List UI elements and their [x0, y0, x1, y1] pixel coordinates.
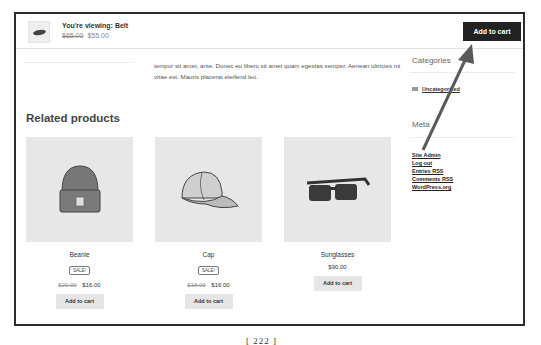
- meta-link-site-admin[interactable]: Site Admin: [412, 152, 441, 158]
- category-link-uncategorized[interactable]: Uncategorized: [422, 86, 460, 92]
- sale-badge: SALE!: [198, 266, 219, 275]
- meta-link-entries-rss[interactable]: Entries RSS: [412, 168, 443, 174]
- product-card-cap: Cap SALE! $18.00 $16.00 Add to cart: [155, 137, 262, 309]
- meta-widget-title: Meta: [412, 120, 430, 129]
- old-price: $65.00: [62, 32, 83, 39]
- add-to-cart-button-beanie[interactable]: Add to cart: [56, 294, 104, 309]
- page-number: [ 222 ]: [246, 336, 277, 345]
- product-card-sunglasses: Sunglasses $90.00 Add to cart: [284, 137, 391, 291]
- browser-frame: You're viewing: Belt $65.00 $55.00 Add t…: [14, 12, 525, 326]
- beanie-image[interactable]: [26, 137, 133, 242]
- sticky-price: $65.00 $55.00: [62, 32, 109, 39]
- old-price: $18.00: [187, 282, 205, 288]
- product-name[interactable]: Beanie: [26, 251, 133, 258]
- cap-image[interactable]: [155, 137, 262, 242]
- product-description: tempor sit amet, ante. Donec eu libero s…: [154, 60, 404, 82]
- related-products-title: Related products: [26, 112, 120, 124]
- product-name[interactable]: Sunglasses: [284, 251, 391, 258]
- divider: [410, 72, 515, 73]
- cap-icon: [176, 168, 242, 212]
- category-item: Uncategorized: [412, 86, 460, 92]
- meta-link-log-out[interactable]: Log out: [412, 160, 432, 166]
- sale-badge: SALE!: [69, 266, 90, 275]
- add-to-cart-button-cap[interactable]: Add to cart: [185, 294, 233, 309]
- meta-link-comments-rss[interactable]: Comments RSS: [412, 176, 453, 182]
- sale-price: $55.00: [87, 32, 108, 39]
- viewing-label: You're viewing: Belt: [62, 22, 128, 29]
- categories-widget-title: Categories: [412, 56, 451, 65]
- meta-links: Site Admin Log out Entries RSS Comments …: [412, 151, 453, 191]
- add-to-cart-button-sunglasses[interactable]: Add to cart: [314, 276, 362, 291]
- meta-link-wordpress-org[interactable]: WordPress.org: [412, 184, 451, 190]
- product-price: $90.00: [284, 264, 391, 270]
- divider: [24, 62, 134, 63]
- sale-price: $16.00: [211, 282, 229, 288]
- folder-icon: [412, 87, 418, 91]
- product-name[interactable]: Cap: [155, 251, 262, 258]
- price: $90.00: [328, 264, 346, 270]
- divider: [410, 137, 515, 138]
- beanie-icon: [54, 162, 106, 218]
- sunglasses-icon: [305, 175, 371, 205]
- product-price: $20.00 $16.00: [26, 282, 133, 288]
- sticky-add-to-cart-bar: You're viewing: Belt $65.00 $55.00 Add t…: [16, 14, 523, 49]
- sticky-add-to-cart-button[interactable]: Add to cart: [463, 22, 521, 41]
- old-price: $20.00: [58, 282, 76, 288]
- sunglasses-image[interactable]: [284, 137, 391, 242]
- belt-icon: [33, 29, 47, 36]
- sale-price: $16.00: [82, 282, 100, 288]
- product-card-beanie: Beanie SALE! $20.00 $16.00 Add to cart: [26, 137, 133, 309]
- product-thumbnail: [28, 21, 50, 43]
- product-price: $18.00 $16.00: [155, 282, 262, 288]
